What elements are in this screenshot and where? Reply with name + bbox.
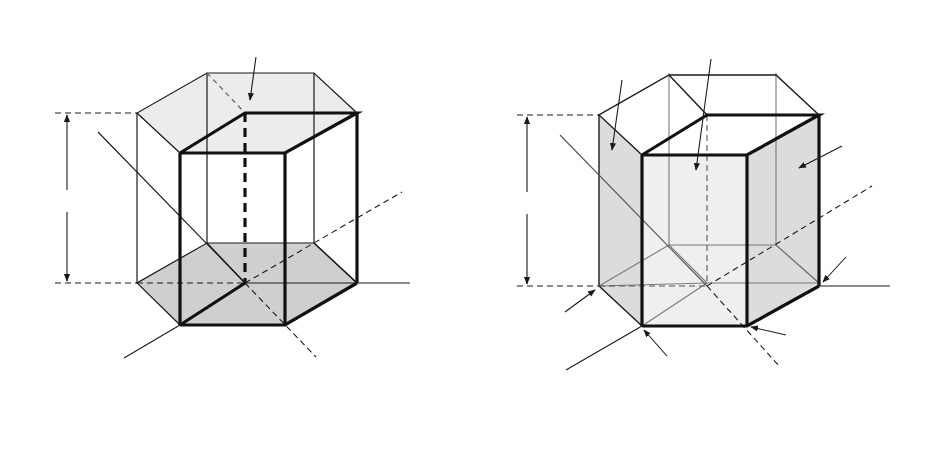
intercept-arrow-A (644, 330, 667, 356)
hcp-miller-bravais-figure (0, 0, 928, 474)
panel-a (0, 0, 410, 358)
panel-b (462, 0, 890, 370)
intercept-arrow-H (823, 257, 846, 282)
face-10-10 (642, 155, 747, 326)
intercept-arrow-D (751, 327, 786, 335)
face-1-100 (599, 115, 642, 326)
bottom-basal-plane-shade (137, 243, 357, 325)
face-01-10 (747, 115, 819, 326)
intercept-arrow-F (565, 290, 595, 312)
